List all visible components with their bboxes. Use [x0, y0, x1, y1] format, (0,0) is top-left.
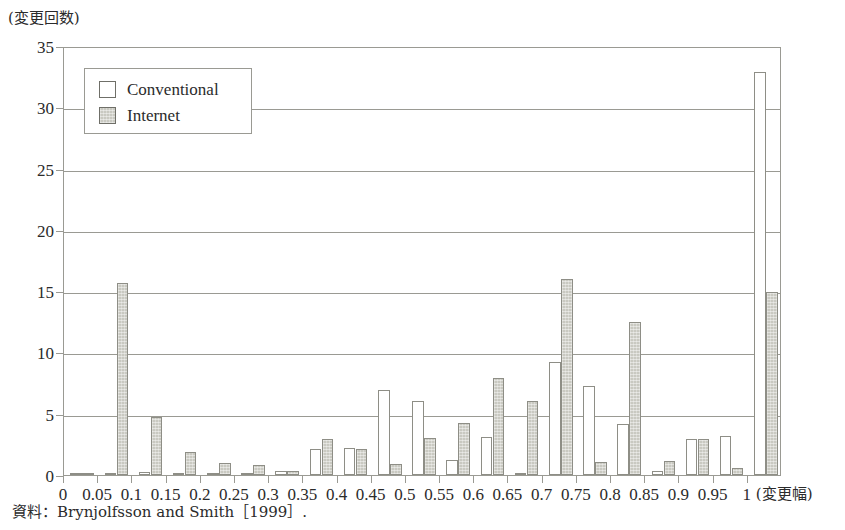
bar-conventional: [617, 424, 629, 475]
source-note: 資料：Brynjolfsson and Smith［1999］.: [12, 504, 307, 521]
bar-conventional: [446, 460, 458, 475]
x-tick-mark: [644, 476, 645, 483]
bar-internet: [629, 322, 641, 475]
bar-internet: [287, 471, 299, 475]
bar-group: [679, 48, 713, 475]
x-tick-label: 0.05: [82, 486, 112, 504]
legend-item-conventional: Conventional: [99, 76, 251, 102]
bar-conventional: [344, 448, 356, 475]
x-axis-caption: (変更幅): [756, 485, 813, 503]
bar-conventional: [686, 439, 698, 475]
legend: Conventional Internet: [84, 68, 252, 134]
x-tick-label: 0.65: [493, 486, 523, 504]
x-tick-mark: [439, 476, 440, 483]
x-tick-mark: [268, 476, 269, 483]
bar-conventional: [754, 72, 766, 475]
bar-internet: [390, 464, 402, 475]
bar-conventional: [515, 473, 527, 475]
bar-internet: [253, 465, 265, 475]
bar-internet: [424, 438, 436, 475]
x-tick-mark: [337, 476, 338, 483]
legend-swatch-conventional-icon: [99, 81, 116, 98]
x-tick-label: 0.3: [258, 486, 279, 504]
bar-conventional: [310, 449, 322, 475]
bar-group: [474, 48, 508, 475]
x-tick-mark: [542, 476, 543, 483]
bar-internet: [561, 279, 573, 475]
x-tick-mark: [371, 476, 372, 483]
bar-internet: [527, 401, 539, 475]
x-tick-label: 0.95: [698, 486, 728, 504]
x-tick-mark: [678, 476, 679, 483]
x-tick-label: 0.6: [463, 486, 484, 504]
x-tick-label: 0.5: [394, 486, 415, 504]
bar-group: [577, 48, 611, 475]
y-tick-label: 25: [37, 161, 54, 178]
x-tick-mark: [302, 476, 303, 483]
bar-conventional: [412, 401, 424, 475]
y-axis: 05101520253035: [0, 0, 63, 530]
bar-internet: [219, 463, 231, 475]
x-tick-mark: [507, 476, 508, 483]
bar-internet: [595, 462, 607, 475]
bar-group: [748, 48, 782, 475]
x-tick-label: 0.85: [629, 486, 659, 504]
y-tick-mark: [56, 231, 63, 232]
bar-conventional: [583, 386, 595, 475]
bar-group: [372, 48, 406, 475]
y-tick-mark: [56, 108, 63, 109]
bar-conventional: [481, 437, 493, 475]
bar-group: [269, 48, 303, 475]
legend-swatch-internet-icon: [99, 107, 116, 124]
x-tick-mark: [63, 476, 64, 483]
bar-internet: [698, 439, 710, 475]
bar-group: [508, 48, 542, 475]
x-tick-mark: [97, 476, 98, 483]
x-tick-label: 0.8: [599, 486, 620, 504]
y-tick-mark: [56, 292, 63, 293]
bar-internet: [151, 417, 163, 475]
x-tick-label: 0.15: [151, 486, 181, 504]
bar-group: [645, 48, 679, 475]
bar-conventional: [549, 362, 561, 475]
x-tick-mark: [234, 476, 235, 483]
legend-item-internet: Internet: [99, 102, 251, 128]
bar-conventional: [275, 471, 287, 475]
chart-root: (変更回数) 05101520253035 00.050.10.150.20.2…: [0, 0, 845, 530]
legend-label-conventional: Conventional: [127, 81, 219, 98]
bar-internet: [493, 378, 505, 475]
bar-internet: [185, 452, 197, 475]
bar-conventional: [173, 473, 185, 475]
bar-group: [303, 48, 337, 475]
bar-internet: [356, 449, 368, 475]
x-tick-mark: [166, 476, 167, 483]
x-tick-mark: [405, 476, 406, 483]
bar-group: [440, 48, 474, 475]
bar-group: [543, 48, 577, 475]
x-tick-mark: [200, 476, 201, 483]
bar-internet: [322, 439, 334, 475]
x-tick-label: 0.1: [121, 486, 142, 504]
bar-conventional: [378, 390, 390, 475]
bar-conventional: [70, 473, 82, 475]
x-tick-mark: [610, 476, 611, 483]
y-tick-mark: [56, 170, 63, 171]
y-tick-mark: [56, 415, 63, 416]
x-tick-mark: [747, 476, 748, 483]
y-tick-mark: [56, 353, 63, 354]
y-tick-label: 10: [37, 345, 54, 362]
y-tick-mark: [56, 47, 63, 48]
x-tick-mark: [131, 476, 132, 483]
bar-group: [406, 48, 440, 475]
y-tick-label: 35: [37, 39, 54, 56]
x-tick-label: 0.4: [326, 486, 347, 504]
x-tick-mark: [473, 476, 474, 483]
x-tick-label: 0.75: [561, 486, 591, 504]
bar-conventional: [720, 436, 732, 475]
x-tick-label: 0.9: [668, 486, 689, 504]
x-tick-label: 0.45: [356, 486, 386, 504]
bar-conventional: [207, 473, 219, 475]
bar-internet: [117, 283, 129, 475]
bar-conventional: [105, 473, 117, 475]
bar-internet: [766, 292, 778, 475]
